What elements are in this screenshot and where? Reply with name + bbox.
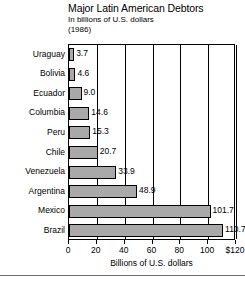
bar-brazil — [69, 224, 223, 237]
bar-row: 33.9 — [69, 163, 234, 183]
category-label-chile: Chile — [0, 146, 65, 159]
tick-mark-120 — [235, 240, 236, 244]
bars-layer: 3.74.69.014.615.320.733.948.9101.7110.7 — [69, 45, 234, 239]
chart-subtitle: In billions of U.S. dollars — [68, 15, 243, 25]
tick-label-60: 60 — [147, 245, 156, 256]
bar-row: 101.7 — [69, 202, 234, 222]
tick-label-40: 40 — [119, 245, 128, 256]
bar-chile — [69, 146, 98, 159]
bar-row: 48.9 — [69, 182, 234, 202]
bar-row: 110.7 — [69, 221, 234, 241]
bar-value-label: 20.7 — [100, 145, 117, 158]
bar-row: 15.3 — [69, 123, 234, 143]
tick-mark-0 — [68, 240, 69, 244]
bar-value-label: 3.7 — [76, 47, 88, 60]
tick-label-80: 80 — [175, 245, 184, 256]
x-axis-tick-labels: 020406080100$120 — [0, 245, 245, 257]
tick-mark-40 — [124, 240, 125, 244]
tick-label-120: $120 — [226, 245, 245, 256]
bar-peru — [69, 126, 90, 139]
bar-value-label: 14.6 — [91, 106, 108, 119]
bar-uraguay — [69, 48, 74, 61]
category-label-argentina: Argentina — [0, 185, 65, 198]
tick-label-20: 20 — [91, 245, 100, 256]
bar-row: 4.6 — [69, 65, 234, 85]
tick-label-100: 100 — [200, 245, 214, 256]
bar-row: 3.7 — [69, 45, 234, 65]
bar-value-label: 4.6 — [77, 67, 89, 80]
bar-ecuador — [69, 87, 82, 100]
bar-argentina — [69, 185, 137, 198]
tick-label-0: 0 — [66, 245, 71, 256]
bottom-divider — [0, 275, 245, 276]
tick-mark-80 — [179, 240, 180, 244]
category-label-brazil: Brazil — [0, 224, 65, 237]
category-label-ecuador: Ecuador — [0, 87, 65, 100]
category-label-columbia: Columbia — [0, 106, 65, 119]
bar-row: 9.0 — [69, 84, 234, 104]
bar-value-label: 15.3 — [92, 125, 109, 138]
chart-title: Major Latin American Debtors — [68, 2, 243, 15]
bar-row: 20.7 — [69, 143, 234, 163]
category-label-mexico: Mexico — [0, 204, 65, 217]
bar-mexico — [69, 205, 211, 218]
gridline-120 — [236, 45, 237, 239]
bar-value-label: 9.0 — [84, 86, 96, 99]
x-axis-title: Billions of U.S. dollars — [68, 258, 235, 269]
plot-area: 3.74.69.014.615.320.733.948.9101.7110.7 — [68, 44, 235, 240]
bar-row: 14.6 — [69, 104, 234, 124]
bar-value-label: 33.9 — [118, 165, 135, 178]
bar-venezuela — [69, 166, 116, 179]
bar-chart-figure: Major Latin American Debtors In billions… — [0, 0, 245, 283]
tick-mark-100 — [207, 240, 208, 244]
bar-value-label: 101.7 — [213, 204, 234, 217]
category-label-venezuela: Venezuela — [0, 165, 65, 178]
category-label-bolivia: Bolivia — [0, 67, 65, 80]
bar-value-label: 110.7 — [225, 223, 245, 236]
y-axis-category-labels: UraguayBoliviaEcuadorColumbiaPeruChileVe… — [0, 44, 65, 240]
category-label-peru: Peru — [0, 126, 65, 139]
bar-value-label: 48.9 — [139, 184, 156, 197]
bar-columbia — [69, 107, 89, 120]
category-label-uraguay: Uraguay — [0, 48, 65, 61]
bar-bolivia — [69, 68, 75, 81]
tick-mark-60 — [152, 240, 153, 244]
tick-mark-20 — [96, 240, 97, 244]
chart-year: (1986) — [68, 25, 243, 35]
chart-title-block: Major Latin American Debtors In billions… — [68, 2, 243, 35]
